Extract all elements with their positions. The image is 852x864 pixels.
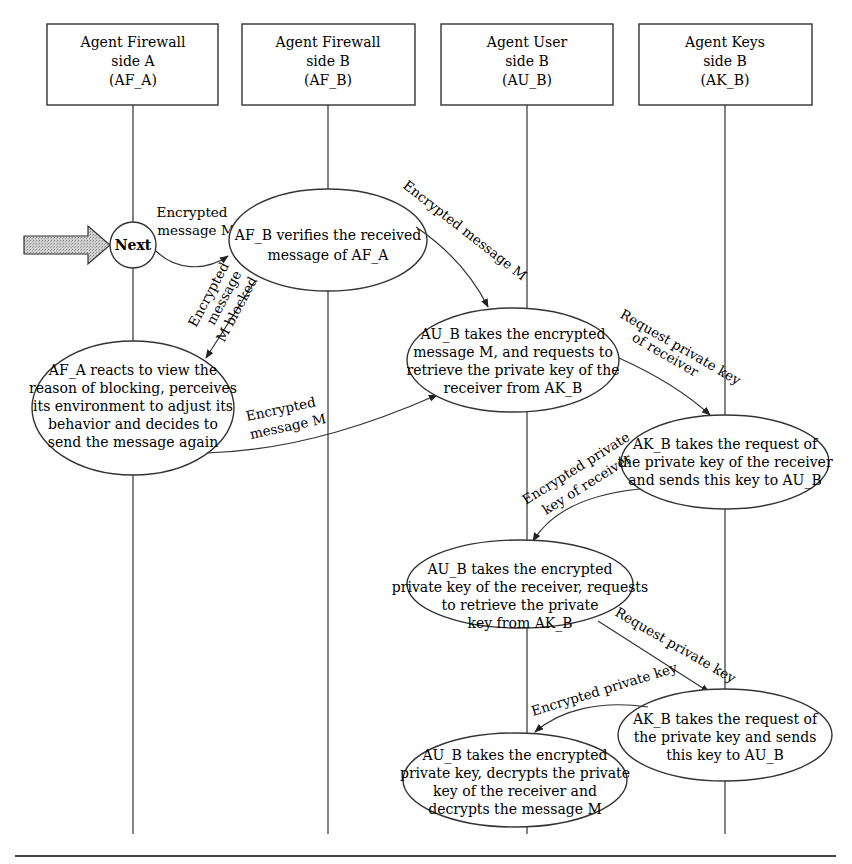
svg-text:AU_B takes the encrypted: AU_B takes the encrypted	[420, 326, 606, 343]
lane-id: (AU_B)	[502, 72, 552, 89]
start-node-label: Next	[115, 237, 152, 253]
svg-text:key of the receiver and: key of the receiver and	[433, 783, 597, 799]
lane-header-au-b: Agent User side B (AU_B)	[441, 24, 613, 105]
lane-side: side B	[306, 53, 350, 69]
start-block-arrow-icon	[24, 226, 110, 264]
svg-text:retrieve the private key of th: retrieve the private key of the	[407, 362, 620, 378]
lane-side: side B	[703, 53, 747, 69]
svg-text:this key to AU_B: this key to AU_B	[666, 747, 784, 764]
svg-text:key from AK_B: key from AK_B	[467, 615, 572, 632]
svg-text:decrypts the message M: decrypts the message M	[428, 801, 602, 817]
lane-id: (AK_B)	[701, 72, 750, 89]
svg-text:AK_B takes the request of: AK_B takes the request of	[632, 436, 819, 453]
node-au-b-request-key: AU_B takes the encrypted message M, and …	[407, 308, 620, 412]
lane-id: (AF_A)	[109, 72, 157, 89]
svg-text:private key of the receiver, r: private key of the receiver, requests	[392, 579, 648, 595]
svg-text:AF_A reacts to view the: AF_A reacts to view the	[48, 362, 217, 379]
lane-side: side B	[505, 53, 549, 69]
node-ak-b-send-receiver-key: AK_B takes the request of the private ke…	[617, 415, 832, 509]
svg-text:its environment to adjust its: its environment to adjust its	[33, 398, 233, 414]
lane-header-af-a: Agent Firewall side A (AF_A)	[47, 24, 218, 105]
svg-text:behavior and decides to: behavior and decides to	[48, 416, 218, 432]
svg-text:receiver from AK_B: receiver from AK_B	[444, 380, 583, 397]
svg-text:message M, and requests to: message M, and requests to	[413, 344, 613, 360]
svg-text:AK_B takes the request of: AK_B takes the request of	[632, 711, 819, 728]
svg-text:reason of blocking, perceives: reason of blocking, perceives	[29, 380, 237, 396]
edge-label-line: Encrypted	[157, 204, 228, 220]
lane-title: Agent User	[486, 34, 568, 50]
lane-title: Agent Firewall	[275, 34, 381, 50]
node-af-b-verify: AF_B verifies the received message of AF…	[229, 189, 427, 291]
svg-text:to retrieve the private: to retrieve the private	[442, 597, 599, 613]
lane-title: Agent Firewall	[80, 34, 186, 50]
svg-text:AU_B takes the encrypted: AU_B takes the encrypted	[422, 747, 608, 764]
node-ak-b-send-private: AK_B takes the request of the private ke…	[618, 689, 832, 781]
start-node-next: Next	[110, 222, 156, 268]
lane-id: (AF_B)	[304, 72, 352, 89]
node-au-b-decrypt: AU_B takes the encrypted private key, de…	[400, 733, 630, 827]
sequence-diagram: Agent Firewall side A (AF_A) Agent Firew…	[0, 0, 852, 864]
edge-label-line: message M	[157, 222, 235, 238]
svg-text:private key, decrypts the priv: private key, decrypts the private	[400, 765, 630, 781]
lane-header-af-b: Agent Firewall side B (AF_B)	[242, 24, 415, 105]
svg-text:the private key and sends: the private key and sends	[634, 729, 817, 745]
node-au-b-request-private: AU_B takes the encrypted private key of …	[392, 540, 648, 632]
node-af-a-react: AF_A reacts to view the reason of blocki…	[29, 341, 237, 475]
svg-text:message of AF_A: message of AF_A	[268, 247, 390, 264]
lane-title: Agent Keys	[684, 34, 765, 50]
svg-text:the private key of the receive: the private key of the receiver	[617, 454, 832, 470]
lane-header-ak-b: Agent Keys side B (AK_B)	[639, 24, 812, 105]
svg-text:send the message again: send the message again	[48, 434, 218, 450]
svg-text:and sends this key to AU_B: and sends this key to AU_B	[628, 472, 821, 489]
svg-text:AF_B verifies the received: AF_B verifies the received	[234, 227, 421, 244]
svg-text:AU_B takes the encrypted: AU_B takes the encrypted	[427, 561, 613, 578]
lane-side: side A	[111, 53, 155, 69]
